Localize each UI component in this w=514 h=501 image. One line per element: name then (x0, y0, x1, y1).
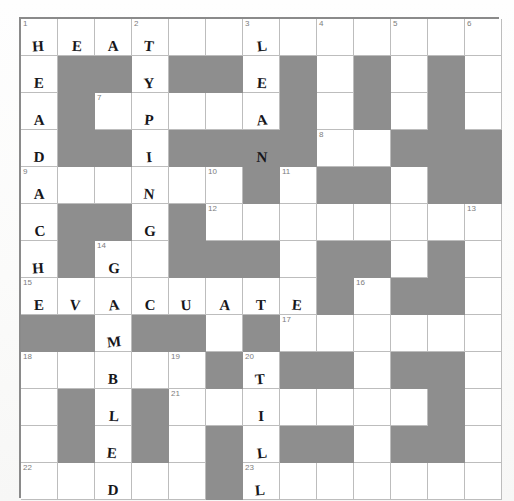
grid-cell[interactable] (243, 204, 280, 241)
grid-cell[interactable] (391, 204, 428, 241)
grid-cell[interactable]: 13 (465, 204, 502, 241)
grid-cell[interactable] (95, 167, 132, 204)
grid-cell[interactable]: M (95, 315, 132, 352)
grid-cell[interactable]: 1H (21, 19, 58, 56)
grid-cell[interactable] (317, 389, 354, 426)
grid-cell[interactable] (354, 463, 391, 500)
grid-cell[interactable] (391, 167, 428, 204)
grid-cell[interactable]: 15E (21, 278, 58, 315)
grid-cell[interactable] (391, 463, 428, 500)
grid-cell[interactable] (428, 315, 465, 352)
grid-cell[interactable]: 2T (132, 19, 169, 56)
grid-cell[interactable] (465, 389, 502, 426)
grid-cell[interactable] (465, 426, 502, 463)
grid-cell[interactable] (169, 426, 206, 463)
grid-cell[interactable]: E (280, 278, 317, 315)
grid-cell[interactable]: 11 (280, 167, 317, 204)
grid-cell[interactable] (280, 19, 317, 56)
grid-cell[interactable]: 17 (280, 315, 317, 352)
grid-cell[interactable] (206, 93, 243, 130)
grid-cell[interactable] (465, 352, 502, 389)
grid-cell[interactable] (391, 315, 428, 352)
grid-cell[interactable] (132, 463, 169, 500)
grid-cell[interactable]: P (132, 93, 169, 130)
grid-cell[interactable] (465, 315, 502, 352)
grid-cell[interactable]: B (95, 352, 132, 389)
grid-cell[interactable]: 8 (317, 130, 354, 167)
grid-cell[interactable] (169, 19, 206, 56)
grid-cell[interactable] (280, 204, 317, 241)
grid-cell[interactable]: E (58, 19, 95, 56)
grid-cell[interactable]: H (21, 241, 58, 278)
grid-cell[interactable] (354, 389, 391, 426)
grid-cell[interactable]: 10 (206, 167, 243, 204)
grid-cell[interactable]: A (21, 93, 58, 130)
grid-cell[interactable]: N (132, 167, 169, 204)
grid-cell[interactable] (354, 426, 391, 463)
grid-cell[interactable]: 21 (169, 389, 206, 426)
grid-cell[interactable]: A (243, 93, 280, 130)
grid-cell[interactable] (21, 389, 58, 426)
grid-cell[interactable] (317, 56, 354, 93)
grid-cell[interactable] (280, 241, 317, 278)
grid-cell[interactable] (132, 352, 169, 389)
grid-cell[interactable] (317, 315, 354, 352)
grid-cell[interactable]: G (132, 204, 169, 241)
grid-cell[interactable] (206, 19, 243, 56)
grid-cell[interactable] (465, 463, 502, 500)
grid-cell[interactable]: 23L (243, 463, 280, 500)
grid-cell[interactable]: 7 (95, 93, 132, 130)
grid-cell[interactable]: A (95, 278, 132, 315)
grid-cell[interactable] (317, 204, 354, 241)
grid-cell[interactable] (354, 204, 391, 241)
grid-cell[interactable]: 20T (243, 352, 280, 389)
grid-cell[interactable]: D (21, 130, 58, 167)
grid-cell[interactable] (169, 167, 206, 204)
grid-cell[interactable] (391, 93, 428, 130)
grid-cell[interactable] (280, 389, 317, 426)
grid-cell[interactable] (428, 19, 465, 56)
grid-cell[interactable]: U (169, 278, 206, 315)
grid-cell[interactable]: L (243, 426, 280, 463)
grid-cell[interactable] (280, 463, 317, 500)
grid-cell[interactable]: E (243, 56, 280, 93)
grid-cell[interactable] (465, 56, 502, 93)
grid-cell[interactable]: D (95, 463, 132, 500)
grid-cell[interactable] (206, 389, 243, 426)
grid-cell[interactable] (58, 463, 95, 500)
grid-cell[interactable]: 16 (354, 278, 391, 315)
grid-cell[interactable]: 9A (21, 167, 58, 204)
grid-cell[interactable]: C (132, 278, 169, 315)
grid-cell[interactable] (21, 426, 58, 463)
grid-cell[interactable] (354, 130, 391, 167)
grid-cell[interactable] (465, 241, 502, 278)
crossword-grid[interactable]: 1HEA2T3L456EYEA7PADIN89AN1011CG1213H14G1… (21, 19, 497, 496)
grid-cell[interactable] (428, 463, 465, 500)
grid-cell[interactable]: 18 (21, 352, 58, 389)
grid-cell[interactable] (317, 93, 354, 130)
grid-cell[interactable] (354, 352, 391, 389)
grid-cell[interactable] (58, 167, 95, 204)
grid-cell[interactable]: A (206, 278, 243, 315)
grid-cell[interactable] (391, 241, 428, 278)
grid-cell[interactable] (169, 463, 206, 500)
grid-cell[interactable] (132, 241, 169, 278)
grid-cell[interactable] (354, 315, 391, 352)
grid-cell[interactable]: 5 (391, 19, 428, 56)
grid-cell[interactable]: 4 (317, 19, 354, 56)
grid-cell[interactable]: E (95, 426, 132, 463)
grid-cell[interactable]: Y (132, 56, 169, 93)
grid-cell[interactable]: T (243, 278, 280, 315)
grid-cell[interactable]: I (243, 389, 280, 426)
grid-cell[interactable]: L (95, 389, 132, 426)
grid-cell[interactable] (428, 204, 465, 241)
grid-cell[interactable] (354, 19, 391, 56)
grid-cell[interactable] (206, 315, 243, 352)
grid-cell[interactable] (465, 93, 502, 130)
grid-cell[interactable]: V (58, 278, 95, 315)
grid-cell[interactable]: E (21, 56, 58, 93)
grid-cell[interactable]: 3L (243, 19, 280, 56)
grid-cell[interactable] (169, 93, 206, 130)
grid-cell[interactable] (391, 389, 428, 426)
grid-cell[interactable]: I (132, 130, 169, 167)
